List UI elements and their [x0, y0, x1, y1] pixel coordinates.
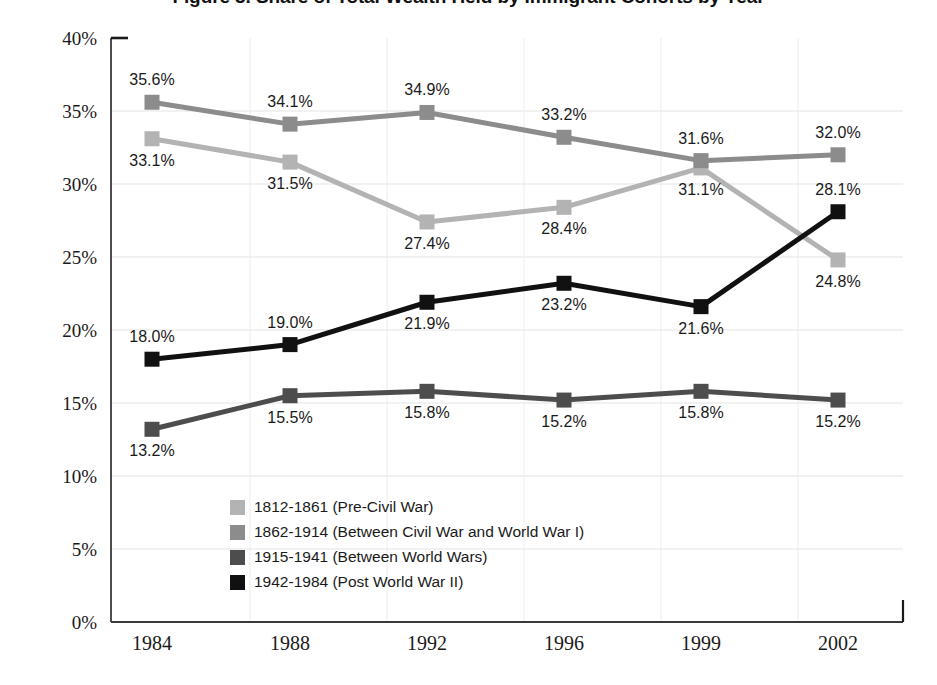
data-point-label: 24.8% [815, 273, 860, 290]
series-marker [420, 105, 435, 120]
data-point-label: 19.0% [267, 314, 312, 331]
data-point-label: 33.2% [541, 106, 586, 123]
y-tick-label: 5% [72, 539, 98, 560]
chart-legend: 1812-1861 (Pre-Civil War)1862-1914 (Betw… [230, 498, 584, 590]
x-tick-label: 1988 [270, 632, 310, 654]
data-point-label: 34.1% [267, 93, 312, 110]
data-point-label: 15.8% [404, 404, 449, 421]
series-line [152, 212, 838, 359]
x-tick-label: 1984 [132, 632, 172, 654]
data-point-label: 15.2% [815, 413, 860, 430]
chart-plot: 0%5%10%15%20%25%30%35%40% 19841988199219… [0, 0, 937, 685]
x-tick-label: 2002 [818, 632, 858, 654]
data-point-label: 18.0% [129, 328, 174, 345]
chart-container: Figure 3. Share of Total Wealth Held by … [0, 0, 937, 685]
data-point-label: 31.1% [678, 181, 723, 198]
series-marker [557, 130, 572, 145]
series-marker [145, 131, 160, 146]
data-point-label: 31.5% [267, 175, 312, 192]
data-point-label: 23.2% [541, 296, 586, 313]
series-marker [283, 117, 298, 132]
data-point-labels: 33.1%31.5%27.4%28.4%31.1%24.8%35.6%34.1%… [129, 71, 860, 459]
y-tick-label: 30% [62, 174, 97, 195]
y-tick-label: 20% [62, 320, 97, 341]
data-point-label: 21.6% [678, 320, 723, 337]
y-tick-label: 25% [62, 247, 97, 268]
series-marker [831, 204, 846, 219]
legend-swatch [230, 550, 245, 565]
series-marker [283, 388, 298, 403]
data-point-label: 35.6% [129, 71, 174, 88]
series-marker [831, 252, 846, 267]
legend-label: 1862-1914 (Between Civil War and World W… [254, 523, 584, 540]
legend-label: 1812-1861 (Pre-Civil War) [254, 498, 433, 515]
data-point-label: 28.1% [815, 181, 860, 198]
data-point-label: 13.2% [129, 442, 174, 459]
series-marker [145, 95, 160, 110]
y-tick-label: 15% [62, 393, 97, 414]
series-marker [694, 153, 709, 168]
series-marker [145, 422, 160, 437]
series-marker [831, 393, 846, 408]
data-point-label: 32.0% [815, 124, 860, 141]
series-marker [557, 276, 572, 291]
data-point-label: 34.9% [404, 81, 449, 98]
x-tick-label: 1999 [681, 632, 721, 654]
data-point-label: 28.4% [541, 220, 586, 237]
series-marker [831, 147, 846, 162]
data-point-label: 31.6% [678, 130, 723, 147]
data-point-label: 15.5% [267, 409, 312, 426]
y-axis-tick-labels: 0%5%10%15%20%25%30%35%40% [62, 28, 97, 633]
data-point-label: 21.9% [404, 315, 449, 332]
legend-swatch [230, 500, 245, 515]
x-axis-tick-labels: 198419881992199619992002 [132, 632, 858, 654]
gridlines-group [111, 111, 903, 549]
y-tick-label: 40% [62, 28, 97, 49]
series-marker [557, 393, 572, 408]
data-point-label: 15.8% [678, 404, 723, 421]
y-tick-label: 0% [72, 612, 98, 633]
series-marker [145, 352, 160, 367]
series-marker [420, 295, 435, 310]
series-marker [283, 337, 298, 352]
y-tick-label: 35% [62, 101, 97, 122]
data-point-label: 27.4% [404, 235, 449, 252]
x-tick-label: 1992 [407, 632, 447, 654]
series-line [152, 391, 838, 429]
series-marker [283, 155, 298, 170]
series-marker [420, 384, 435, 399]
series-marker [694, 299, 709, 314]
series-marker [557, 200, 572, 215]
legend-swatch [230, 525, 245, 540]
x-tick-label: 1996 [544, 632, 584, 654]
legend-label: 1915-1941 (Between World Wars) [254, 548, 487, 565]
legend-label: 1942-1984 (Post World War II) [254, 573, 463, 590]
series-marker [694, 384, 709, 399]
data-point-label: 15.2% [541, 413, 586, 430]
y-tick-label: 10% [62, 466, 97, 487]
series-marker [420, 214, 435, 229]
legend-swatch [230, 575, 245, 590]
data-point-label: 33.1% [129, 152, 174, 169]
